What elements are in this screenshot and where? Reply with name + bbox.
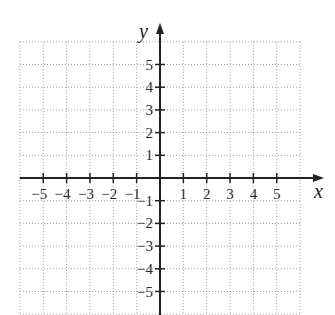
x-tick-label: −3 [78, 186, 94, 202]
x-tick-label: −5 [31, 186, 47, 202]
y-axis-arrow-icon [156, 23, 164, 34]
y-tick-label: 2 [146, 125, 154, 141]
y-tick-label: −5 [137, 284, 153, 300]
x-tick-label: −4 [55, 186, 71, 202]
x-tick-label: 4 [250, 186, 258, 202]
y-tick-label: −4 [137, 261, 153, 277]
y-tick-label: 1 [146, 147, 154, 163]
x-tick-label: 1 [180, 186, 188, 202]
x-axis-label: x [313, 180, 323, 202]
x-tick-label: 3 [226, 186, 234, 202]
y-tick-label: 4 [146, 79, 154, 95]
x-tick-label: −2 [101, 186, 117, 202]
y-tick-label: −3 [137, 238, 153, 254]
y-tick-label: 5 [146, 57, 154, 73]
coordinate-plane: −5−4−3−2−11234554321−1−2−3−4−5 x y [0, 0, 335, 315]
x-tick-label: 5 [273, 186, 281, 202]
y-tick-label: −2 [137, 215, 153, 231]
axes [20, 23, 324, 315]
y-axis-label: y [137, 20, 148, 43]
y-tick-label: 3 [146, 102, 154, 118]
x-tick-label: 2 [203, 186, 211, 202]
y-tick-label: −1 [137, 193, 153, 209]
